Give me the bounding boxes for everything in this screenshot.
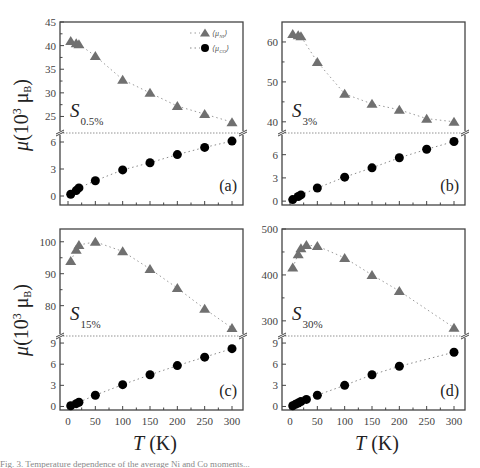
- panel-d: 0501001502002503003004005000369S30%(d): [262, 223, 470, 427]
- y-tick-label: 3: [51, 163, 57, 175]
- ni-data-point: [394, 105, 405, 114]
- co-data-point: [422, 145, 431, 154]
- co-data-point: [340, 381, 349, 390]
- co-data-point: [368, 370, 377, 379]
- co-data-point: [74, 398, 83, 407]
- y-tick-label: 50: [267, 76, 279, 88]
- co-data-point: [228, 344, 237, 353]
- y-tick-label: 9: [273, 337, 279, 349]
- ni-data-point: [449, 323, 460, 332]
- x-tick-label: 250: [418, 415, 435, 427]
- co-data-point: [450, 137, 459, 146]
- ni-data-point: [339, 253, 350, 262]
- x-tick-label: 150: [142, 415, 159, 427]
- ni-data-point: [367, 270, 378, 279]
- x-tick-label: 100: [114, 415, 131, 427]
- svg-text:T (K): T (K): [355, 432, 399, 455]
- ni-trend-line: [71, 242, 232, 328]
- y-tick-label: 6: [51, 358, 57, 370]
- y-tick-label: 3: [273, 172, 279, 184]
- x-tick-label: 100: [336, 415, 353, 427]
- co-data-point: [74, 183, 83, 192]
- y-tick-label: 0: [273, 195, 279, 207]
- panel-letter: (b): [440, 177, 459, 195]
- x-axis-title-left: T (K): [133, 432, 177, 455]
- co-data-point: [200, 353, 209, 362]
- svg-text:μ(103 μB): μ(103 μB): [10, 79, 33, 152]
- y-tick-label: 6: [51, 136, 57, 148]
- y-tick-label: 0: [51, 190, 57, 202]
- x-tick-label: 0: [65, 415, 71, 427]
- figure: μ(103 μB) μ(103 μB) T (K) T (K) 25303540…: [0, 0, 480, 468]
- co-data-point: [368, 163, 377, 172]
- co-data-point: [118, 165, 127, 174]
- y-tick-label: 45: [45, 16, 57, 28]
- co-data-point: [200, 143, 209, 152]
- ni-data-point: [90, 51, 101, 60]
- sample-label: S30%: [292, 303, 323, 330]
- x-tick-label: 200: [169, 415, 186, 427]
- co-data-point: [302, 395, 311, 404]
- co-data-point: [313, 183, 322, 192]
- ni-data-point: [117, 246, 128, 255]
- legend-triangle-icon: [200, 29, 210, 37]
- x-tick-label: 200: [391, 415, 408, 427]
- sample-label: S0.5%: [70, 100, 103, 127]
- co-data-point: [340, 173, 349, 182]
- x-tick-label: 0: [287, 415, 293, 427]
- co-data-point: [146, 370, 155, 379]
- co-data-point: [173, 150, 182, 159]
- co-data-point: [395, 362, 404, 371]
- ni-data-point: [227, 323, 238, 332]
- y-axis-title-top: μ(103 μB): [10, 79, 33, 152]
- y-axis-title-bottom: μ(103 μB): [10, 284, 33, 357]
- y-tick-label: 300: [262, 315, 279, 327]
- y-tick-label: 80: [45, 300, 57, 312]
- ni-data-point: [312, 57, 323, 66]
- y-tick-label: 9: [51, 337, 57, 349]
- y-tick-label: 3: [273, 379, 279, 391]
- ni-data-point: [145, 88, 156, 97]
- co-data-point: [296, 190, 305, 199]
- ni-data-point: [312, 241, 323, 250]
- x-axis-title-right: T (K): [355, 432, 399, 455]
- plot-frame: [282, 22, 465, 205]
- legend-label-co: ⟨μCO⟩: [212, 44, 229, 54]
- ni-data-point: [421, 114, 432, 123]
- figure-caption: Fig. 3. Temperature dependence of the av…: [0, 459, 480, 468]
- sample-label: S3%: [292, 100, 317, 127]
- y-tick-label: 35: [45, 63, 57, 75]
- co-data-point: [228, 137, 237, 146]
- y-tick-label: 60: [267, 36, 279, 48]
- co-data-point: [91, 391, 100, 400]
- y-tick-label: 0: [51, 400, 57, 412]
- ni-data-point: [301, 240, 312, 249]
- ni-data-point: [287, 263, 298, 272]
- ni-data-point: [199, 109, 210, 118]
- y-tick-label: 0: [273, 400, 279, 412]
- panel-letter: (a): [219, 177, 237, 195]
- ni-trend-line: [293, 34, 454, 122]
- ni-data-point: [172, 283, 183, 292]
- ni-data-point: [172, 101, 183, 110]
- y-tick-label: 100: [40, 236, 57, 248]
- panel-letter: (d): [440, 382, 459, 400]
- x-tick-label: 150: [364, 415, 381, 427]
- y-tick-label: 30: [45, 87, 57, 99]
- y-tick-label: 400: [262, 269, 279, 281]
- legend-label-ni: ⟨μNI⟩: [212, 29, 227, 39]
- svg-text:μ(103 μB): μ(103 μB): [10, 284, 33, 357]
- ni-data-point: [394, 286, 405, 295]
- x-tick-label: 250: [196, 415, 213, 427]
- ni-data-point: [65, 256, 76, 265]
- y-tick-label: 3: [51, 379, 57, 391]
- ni-data-point: [73, 240, 84, 249]
- sample-label: S15%: [70, 303, 101, 330]
- panel-letter: (c): [219, 382, 237, 400]
- co-data-point: [146, 158, 155, 167]
- y-tick-label: 6: [273, 358, 279, 370]
- y-tick-label: 6: [273, 149, 279, 161]
- panel-c: 05010015020025030080901000369S15%(c): [40, 229, 248, 427]
- y-tick-label: 40: [45, 40, 57, 52]
- panel-b: 405060036S3%(b): [267, 22, 469, 207]
